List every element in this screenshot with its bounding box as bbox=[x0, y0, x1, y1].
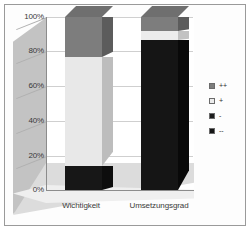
legend-label: ++ bbox=[219, 82, 227, 90]
bar-segment-umsetzungsgrad-plusplus bbox=[141, 17, 178, 31]
legend-label: -- bbox=[219, 127, 224, 135]
legend-item-minus: - bbox=[209, 110, 247, 125]
x-tick-label-umsetzungsgrad: Umsetzungsgrad bbox=[117, 201, 201, 210]
legend-swatch-icon bbox=[209, 98, 215, 104]
x-axis-line bbox=[46, 190, 194, 191]
bar-wichtigkeit bbox=[65, 17, 102, 190]
chart-legend: ++ + - -- bbox=[209, 80, 247, 140]
legend-swatch-icon bbox=[209, 128, 215, 134]
legend-swatch-icon bbox=[209, 113, 215, 119]
y-axis-labels: 100% 80% 60% 40% 20% 0% bbox=[5, 5, 44, 225]
y-axis-line bbox=[46, 17, 47, 190]
y-tick-label: 20% bbox=[6, 152, 44, 160]
legend-label: + bbox=[219, 97, 223, 105]
bar-segment-umsetzungsgrad-minusminus bbox=[141, 40, 178, 190]
bar-segment-umsetzungsgrad-plus bbox=[141, 31, 178, 40]
x-tick-label-wichtigkeit: Wichtigkeit bbox=[45, 201, 117, 210]
bar-umsetzungsgrad bbox=[141, 17, 178, 190]
legend-item-plus: + bbox=[209, 95, 247, 110]
legend-item-minusminus: -- bbox=[209, 125, 247, 140]
bar-segment-wichtigkeit-plus bbox=[65, 57, 102, 166]
y-tick-label: 40% bbox=[6, 117, 44, 125]
bar-segment-wichtigkeit-minusminus bbox=[65, 166, 102, 190]
bar-segment-wichtigkeit-plusplus bbox=[65, 17, 102, 57]
legend-swatch-icon bbox=[209, 83, 215, 89]
legend-item-plusplus: ++ bbox=[209, 80, 247, 95]
y-tick-label: 100% bbox=[6, 13, 44, 21]
y-tick-label: 60% bbox=[6, 82, 44, 90]
legend-label: - bbox=[219, 112, 221, 120]
y-tick-label: 0% bbox=[6, 186, 44, 194]
chart-figure: 100% 80% 60% 40% 20% 0% Wichtigkeit Umse… bbox=[0, 0, 250, 232]
y-tick-label: 80% bbox=[6, 47, 44, 55]
